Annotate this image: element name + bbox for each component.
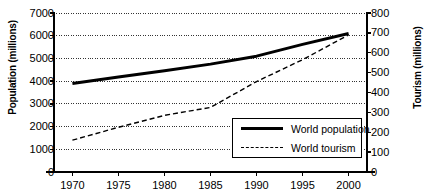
dual-axis-line-chart: Population (millions) Tourism (millions)…	[0, 0, 429, 195]
legend-label: World population	[291, 123, 370, 135]
legend-item-world-population: World population	[233, 119, 361, 139]
legend: World population World tourism	[232, 118, 362, 158]
legend-label: World tourism	[291, 142, 356, 154]
solid-line-swatch	[241, 127, 283, 131]
dashed-line-swatch	[241, 147, 283, 149]
legend-item-world-tourism: World tourism	[233, 138, 361, 158]
plot-area	[0, 0, 429, 195]
